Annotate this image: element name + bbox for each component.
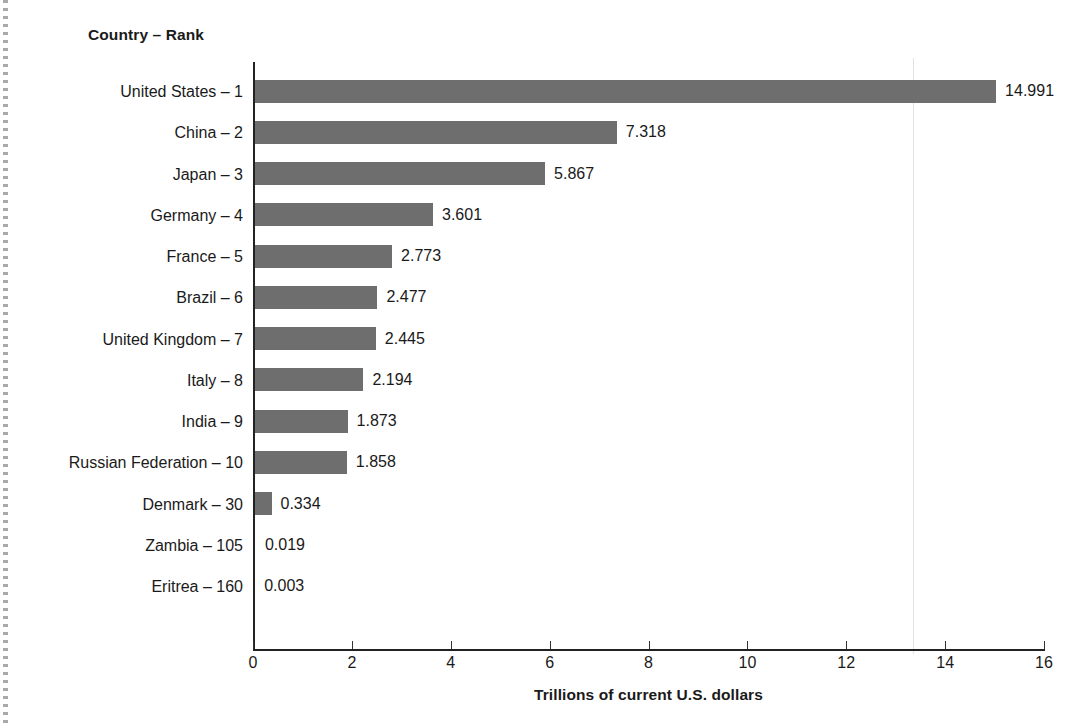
- x-axis-line: [253, 649, 1045, 651]
- bar: [255, 245, 392, 268]
- category-label: Brazil – 6: [0, 289, 243, 307]
- bar-chart-figure: Country – Rank 0246810121416 United Stat…: [0, 0, 1081, 728]
- bar: [255, 80, 996, 103]
- bar-row: China – 27.318: [0, 121, 1081, 144]
- x-tick-14: [945, 641, 946, 649]
- x-tick-0: [253, 641, 254, 649]
- bar-value-label: 3.601: [442, 207, 482, 223]
- bar-row: Japan – 35.867: [0, 162, 1081, 185]
- category-label: China – 2: [0, 124, 243, 142]
- x-tick-6: [550, 641, 551, 649]
- bar: [255, 410, 348, 433]
- x-tick-label-2: 2: [347, 654, 356, 672]
- x-tick-label-10: 10: [738, 654, 756, 672]
- bar-row: Germany – 43.601: [0, 203, 1081, 226]
- x-tick-label-4: 4: [446, 654, 455, 672]
- bar-row: Eritrea – 1600.003: [0, 575, 1081, 598]
- x-tick-16: [1044, 641, 1045, 649]
- bar-value-label: 2.445: [385, 331, 425, 347]
- bar: [255, 368, 363, 391]
- category-label: Zambia – 105: [0, 537, 243, 555]
- x-tick-label-8: 8: [644, 654, 653, 672]
- x-axis-title-text: Trillions of current U.S. dollars: [534, 686, 763, 703]
- bar-value-label: 1.858: [356, 454, 396, 470]
- bar: [255, 121, 617, 144]
- bar-row: Italy – 82.194: [0, 368, 1081, 391]
- x-tick-label-16: 16: [1035, 654, 1053, 672]
- bar-value-label: 0.334: [281, 496, 321, 512]
- category-label: Denmark – 30: [0, 496, 243, 514]
- category-label: Germany – 4: [0, 207, 243, 225]
- x-tick-label-14: 14: [936, 654, 954, 672]
- x-tick-12: [846, 641, 847, 649]
- bar-row: Zambia – 1050.019: [0, 533, 1081, 556]
- bar: [255, 451, 347, 474]
- category-label: Eritrea – 160: [0, 578, 243, 596]
- bar-row: Russian Federation – 101.858: [0, 451, 1081, 474]
- bar-row: India – 91.873: [0, 410, 1081, 433]
- y-axis-line: [253, 62, 255, 650]
- bar-value-label: 0.019: [265, 537, 305, 553]
- category-label: France – 5: [0, 248, 243, 266]
- bar-value-label: 2.773: [401, 248, 441, 264]
- x-tick-4: [451, 641, 452, 649]
- bar-value-label: 2.194: [372, 372, 412, 388]
- bar-row: United States – 114.991: [0, 80, 1081, 103]
- bar-value-label: 1.873: [357, 413, 397, 429]
- category-label: United Kingdom – 7: [0, 331, 243, 349]
- x-tick-10: [747, 641, 748, 649]
- bar-value-label: 5.867: [554, 166, 594, 182]
- x-tick-2: [352, 641, 353, 649]
- bar: [255, 162, 545, 185]
- bar-row: Denmark – 300.334: [0, 492, 1081, 515]
- x-tick-label-6: 6: [545, 654, 554, 672]
- category-label: Japan – 3: [0, 166, 243, 184]
- bar-value-label: 2.477: [386, 289, 426, 305]
- bar: [255, 203, 433, 226]
- category-label: India – 9: [0, 413, 243, 431]
- plot-area: 0246810121416 United States – 114.991Chi…: [0, 0, 1081, 728]
- x-axis-title: Trillions of current U.S. dollars: [0, 686, 1081, 704]
- category-label: Italy – 8: [0, 372, 243, 390]
- x-tick-label-0: 0: [249, 654, 258, 672]
- bar: [255, 492, 272, 515]
- category-label: Russian Federation – 10: [0, 454, 243, 472]
- bar-row: France – 52.773: [0, 245, 1081, 268]
- bar: [255, 286, 377, 309]
- category-label: United States – 1: [0, 83, 243, 101]
- bar-value-label: 14.991: [1005, 83, 1054, 99]
- bar: [255, 327, 376, 350]
- bar-row: United Kingdom – 72.445: [0, 327, 1081, 350]
- bar-value-label: 0.003: [264, 578, 304, 594]
- bar-row: Brazil – 62.477: [0, 286, 1081, 309]
- x-tick-8: [649, 641, 650, 649]
- bar-value-label: 7.318: [626, 124, 666, 140]
- x-tick-label-12: 12: [837, 654, 855, 672]
